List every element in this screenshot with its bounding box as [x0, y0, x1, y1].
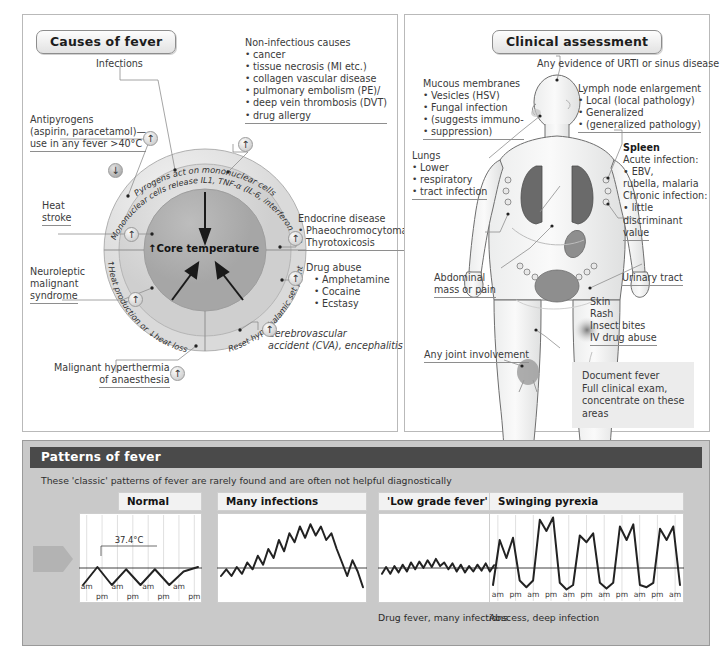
svg-text:am: am	[111, 582, 123, 591]
fever-chart-curves: ampmampmampmampmampmampmampmampmampmam37…	[0, 0, 726, 654]
svg-text:pm: pm	[127, 592, 139, 601]
svg-text:pm: pm	[616, 590, 628, 599]
svg-text:am: am	[598, 590, 610, 599]
svg-text:am: am	[563, 590, 575, 599]
svg-text:pm: pm	[96, 592, 108, 601]
svg-text:am: am	[173, 582, 185, 591]
svg-text:37.4°C: 37.4°C	[115, 535, 144, 545]
svg-text:am: am	[669, 590, 681, 599]
svg-text:pm: pm	[651, 590, 663, 599]
svg-text:am: am	[81, 582, 93, 591]
svg-text:am: am	[527, 590, 539, 599]
svg-text:pm: pm	[188, 592, 200, 601]
svg-text:pm: pm	[509, 590, 521, 599]
svg-text:am: am	[492, 590, 504, 599]
chart-caption-swinging-pyrexia: Abscess, deep infection	[489, 612, 599, 623]
svg-text:pm: pm	[545, 590, 557, 599]
svg-text:pm: pm	[157, 592, 169, 601]
svg-text:pm: pm	[580, 590, 592, 599]
baseline-arrow-icon	[33, 546, 73, 572]
svg-text:am: am	[634, 590, 646, 599]
svg-text:am: am	[142, 582, 154, 591]
